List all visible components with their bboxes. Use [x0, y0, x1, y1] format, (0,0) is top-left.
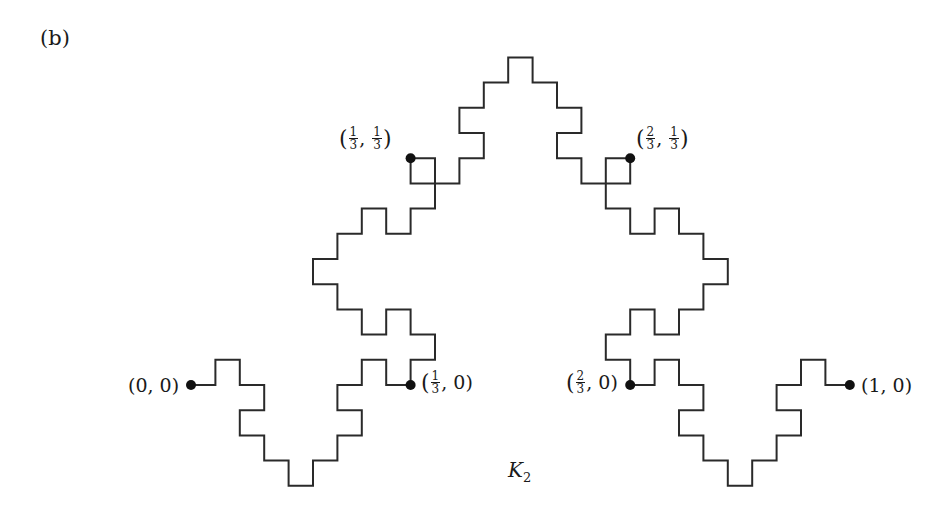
point-label-1-0: (1, 0)	[861, 376, 912, 395]
vertex-dot-p00	[186, 380, 196, 390]
fraction-two-thirds: 23	[576, 370, 586, 395]
curve-canvas	[0, 0, 941, 514]
vertex-dot-p13_13	[406, 153, 416, 163]
vertex-dot-p23_0	[625, 380, 635, 390]
point-label-two-thirds-third: (23, 13)	[636, 126, 689, 151]
point-label-third-0: (13, 0)	[421, 370, 473, 395]
k2-curve-path	[191, 57, 850, 485]
vertex-dots	[186, 153, 855, 390]
vertex-dot-p10	[845, 380, 855, 390]
point-label-third-third: (13, 13)	[339, 126, 392, 151]
vertex-dot-p13_0	[406, 380, 416, 390]
point-label-two-thirds-0: (23, 0)	[566, 370, 618, 395]
curve-label-k2: K2	[508, 460, 531, 484]
koch-curve-figure: (b) (0, 0) (13, 0) (13, 13) (23, 13) (23…	[0, 0, 941, 514]
vertex-dot-p23_13	[625, 153, 635, 163]
fraction-one-third: 13	[431, 370, 441, 395]
point-label-0-0: (0, 0)	[128, 376, 179, 395]
